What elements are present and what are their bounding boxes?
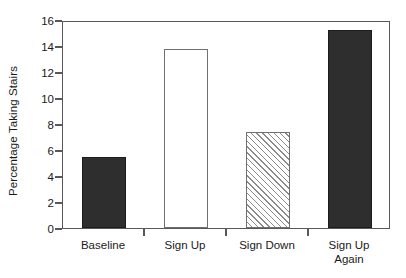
y-axis-tick-label: 12	[28, 67, 54, 79]
y-axis-tick-label: 6	[28, 145, 54, 157]
y-axis-tick	[55, 124, 62, 125]
bar-sign-down[interactable]	[246, 132, 291, 228]
x-axis-tick	[225, 229, 226, 236]
y-axis-tick-label: 8	[28, 119, 54, 131]
y-axis-tick	[55, 228, 62, 229]
y-axis-tick-label: 16	[28, 15, 54, 27]
y-axis-tick-label: 4	[28, 171, 54, 183]
bar-chart-figure: Percentage Taking Stairs 1614121086420 B…	[0, 0, 406, 278]
y-axis-tick	[55, 176, 62, 177]
y-axis-tick	[55, 98, 62, 99]
y-axis-tick-label: 0	[28, 223, 54, 235]
y-axis-tick	[55, 20, 62, 21]
plot-area	[62, 21, 390, 229]
bar-group	[63, 22, 389, 228]
x-axis-tick	[143, 229, 144, 236]
y-axis-tick-label: 10	[28, 93, 54, 105]
x-axis-label-baseline: Baseline	[62, 239, 144, 253]
bar-sign-up[interactable]	[164, 49, 209, 228]
x-axis-tick	[307, 229, 308, 236]
y-axis-tick-label: 2	[28, 197, 54, 209]
bar-sign-up-again[interactable]	[328, 30, 373, 228]
y-axis-tick	[55, 46, 62, 47]
x-axis-label-sign-up: Sign Up	[144, 239, 226, 253]
y-axis-tick-label: 14	[28, 41, 54, 53]
y-axis-title: Percentage Taking Stairs	[4, 16, 22, 246]
x-axis-label-sign-down: Sign Down	[226, 239, 308, 253]
y-axis-tick	[55, 150, 62, 151]
bar-baseline[interactable]	[82, 157, 127, 229]
y-axis-tick	[55, 202, 62, 203]
y-axis-tick	[55, 72, 62, 73]
x-axis-label-sign-up-again: Sign Up Again	[308, 239, 390, 266]
